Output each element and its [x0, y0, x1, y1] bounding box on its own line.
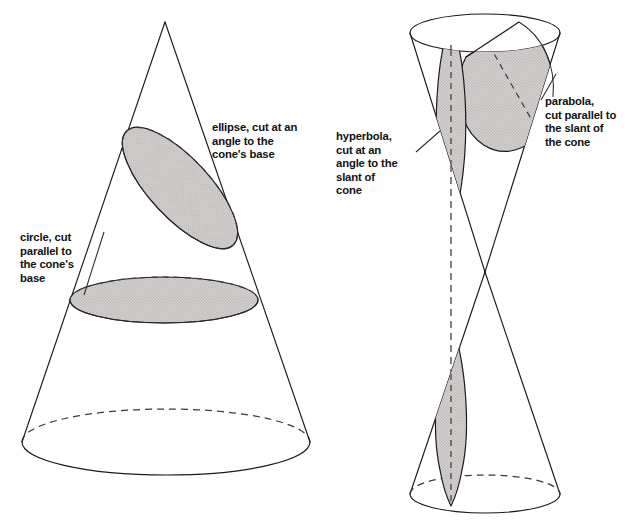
- ellipse-label-line-1: ellipse, cut at an: [212, 121, 297, 133]
- hyperbola-label-line-1: hyperbola,: [336, 130, 392, 142]
- double-cone-group: [410, 14, 560, 513]
- circle-label-line-1: circle, cut: [20, 231, 71, 243]
- hyperbola-label-line-4: slant of: [336, 171, 375, 183]
- upper-nappe-top-rim: [410, 14, 560, 52]
- parabola-label-line-3: the slant of: [545, 122, 604, 134]
- circle-label: circle, cut parallel to the cone's base: [20, 231, 77, 284]
- circle-label-line-3: the cone's: [20, 258, 74, 270]
- lower-nappe-base-front-arc: [410, 494, 560, 513]
- parabola-label-line-2: cut parallel to: [545, 109, 616, 121]
- hyperbola-label-leader: [416, 131, 440, 152]
- ellipse-label: ellipse, cut at an angle to the cone's b…: [212, 121, 300, 160]
- ellipse-label-line-3: cone's base: [212, 148, 275, 160]
- hyperbola-label: hyperbola, cut at an angle to the slant …: [336, 130, 401, 196]
- parabola-label-line-4: the cone: [545, 136, 590, 148]
- parabola-label: parabola, cut parallel to the slant of t…: [545, 95, 619, 148]
- circle-cut-section: [70, 277, 258, 323]
- parabola-label-line-1: parabola,: [545, 95, 594, 107]
- ellipse-label-line-2: angle to the: [212, 135, 274, 147]
- lower-nappe-right-slant: [485, 272, 560, 494]
- lower-nappe-base-hidden-arc: [410, 475, 560, 494]
- circle-label-line-4: base: [20, 272, 45, 284]
- conic-sections-figure: ellipse, cut at an angle to the cone's b…: [0, 0, 636, 528]
- cone-base-hidden-arc: [22, 409, 310, 442]
- circle-label-line-2: parallel to: [20, 245, 72, 257]
- conic-sections-diagram: ellipse, cut at an angle to the cone's b…: [0, 0, 636, 528]
- cone-base-front-arc: [22, 442, 310, 475]
- hyperbola-label-line-5: cone: [336, 184, 362, 196]
- hyperbola-label-line-2: cut at an: [336, 144, 381, 156]
- hyperbola-label-line-3: angle to the: [336, 157, 398, 169]
